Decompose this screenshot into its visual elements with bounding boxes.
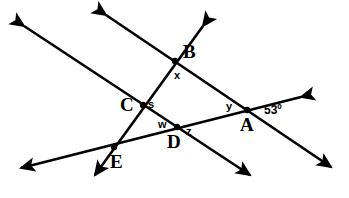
vertex-dot-b (172, 58, 178, 64)
line-through-E-D-and-A (21, 97, 301, 168)
line-through-C-and-D (24, 26, 250, 175)
vertex-dot-a (244, 107, 250, 113)
diagram-canvas (0, 0, 349, 198)
point-label-a: A (240, 115, 254, 134)
angle-label-y: y (226, 101, 232, 112)
point-label-d: D (167, 132, 181, 151)
point-label-c: C (120, 95, 134, 114)
angle-label-angle53: 53º (264, 104, 282, 116)
geometry-diagram: ABCDExswzy53º (0, 0, 349, 198)
point-label-e: E (110, 152, 123, 171)
point-label-b: B (183, 42, 196, 61)
vertex-dot-e (111, 144, 117, 150)
line-through-B-and-A (106, 15, 331, 167)
angle-label-x: x (174, 70, 180, 81)
angle-label-w: w (158, 119, 167, 130)
vertex-dot-d (174, 124, 180, 130)
vertex-dot-c (140, 102, 146, 108)
angle-label-s: s (148, 99, 154, 110)
angle-label-z: z (186, 126, 192, 137)
